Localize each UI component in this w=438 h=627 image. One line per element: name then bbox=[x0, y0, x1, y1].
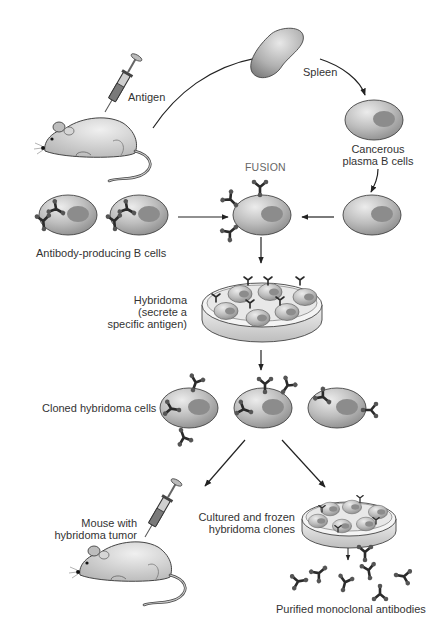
antigen-syringe-icon bbox=[100, 52, 143, 115]
cloned-cell-1 bbox=[160, 373, 218, 447]
b-cell-1 bbox=[34, 195, 97, 235]
hybridoma-petri-dish bbox=[202, 277, 322, 342]
cloned-cell-3 bbox=[308, 386, 378, 428]
arrow-cancerous-down bbox=[371, 169, 378, 192]
cultured-petri-dish bbox=[302, 496, 396, 548]
label-mouse-line2: hybridoma tumor bbox=[45, 529, 137, 542]
tumor-mouse-icon bbox=[69, 542, 185, 605]
label-hybridoma-line3: specific antigen) bbox=[100, 318, 187, 331]
label-spleen: Spleen bbox=[303, 66, 337, 79]
arrow-clones-to-culture bbox=[282, 440, 325, 487]
fused-cell bbox=[219, 180, 291, 243]
hybridoma-diagram: Antigen Spleen Cancerous plasma B cells … bbox=[0, 0, 438, 627]
label-fusion: FUSION bbox=[245, 161, 286, 174]
label-antibody-producing-b-cells: Antibody-producing B cells bbox=[36, 247, 166, 260]
purified-antibodies-icon bbox=[289, 545, 412, 602]
arrow-clones-to-mouse bbox=[205, 440, 245, 486]
immunized-mouse-icon bbox=[34, 118, 150, 181]
cancerous-cell-2 bbox=[343, 195, 401, 235]
label-cancerous-line2: plasma B cells bbox=[340, 155, 416, 168]
cloned-cell-2 bbox=[234, 375, 299, 428]
spleen-icon bbox=[251, 28, 304, 77]
hybridoma-syringe-icon bbox=[140, 477, 183, 540]
label-cloned-hybridoma-cells: Cloned hybridoma cells bbox=[42, 402, 156, 415]
arrow-mouse-to-spleen bbox=[153, 57, 262, 128]
label-purified-monoclonal-antibodies: Purified monoclonal antibodies bbox=[276, 603, 426, 616]
label-antigen: Antigen bbox=[128, 91, 165, 104]
cancerous-plasma-b-cell bbox=[345, 100, 403, 140]
b-cell-2 bbox=[105, 195, 168, 235]
label-cultured-line2: hybridoma clones bbox=[190, 523, 295, 536]
